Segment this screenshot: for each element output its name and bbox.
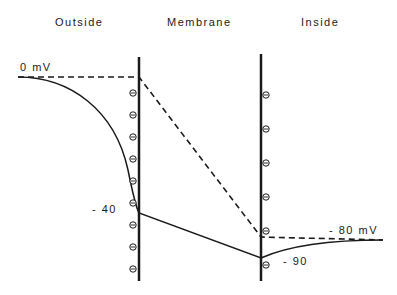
negative-charge-icon [263, 228, 269, 234]
negative-charge-icon [130, 156, 136, 162]
negative-charge-icon [130, 200, 136, 206]
inside-heading: Inside [301, 16, 339, 28]
zero-mv-label: 0 mV [20, 61, 52, 73]
negative-charge-icon [130, 244, 136, 250]
negative-charge-icon [130, 266, 136, 272]
minus-90-label: - 90 [283, 255, 308, 267]
outer-surface-charges [130, 90, 136, 272]
negative-charge-icon [130, 178, 136, 184]
minus-40-label: - 40 [92, 203, 117, 215]
negative-charge-icon [130, 112, 136, 118]
negative-charge-icon [263, 160, 269, 166]
outside-heading: Outside [55, 16, 103, 28]
negative-charge-icon [263, 92, 269, 98]
dashed-potential-profile [18, 77, 383, 240]
negative-charge-icon [263, 262, 269, 268]
negative-charge-icon [263, 194, 269, 200]
membrane-heading: Membrane [167, 16, 232, 28]
inner-surface-charges [263, 92, 269, 268]
membrane-potential-diagram: Outside Membrane Inside 0 mV - 40 - 80 m… [0, 0, 397, 295]
minus-80-mv-label: - 80 mV [329, 224, 378, 236]
negative-charge-icon [130, 222, 136, 228]
negative-charge-icon [130, 90, 136, 96]
negative-charge-icon [130, 134, 136, 140]
negative-charge-icon [263, 126, 269, 132]
